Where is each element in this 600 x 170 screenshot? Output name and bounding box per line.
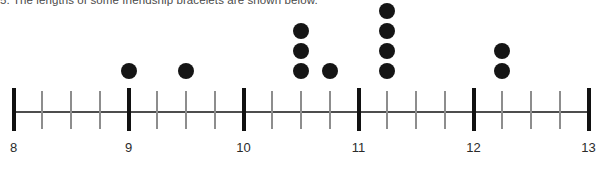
data-dot xyxy=(322,63,338,79)
axis-tick-minor xyxy=(501,91,503,129)
data-dot xyxy=(379,63,395,79)
data-dot xyxy=(293,43,309,59)
data-dot xyxy=(379,3,395,19)
data-dot xyxy=(494,63,510,79)
axis-tick-major xyxy=(587,88,591,131)
axis-tick-minor xyxy=(214,91,216,129)
axis-tick-minor xyxy=(156,91,158,129)
axis-tick-minor xyxy=(99,91,101,129)
axis-tick-major xyxy=(472,88,476,131)
axis-tick-label: 13 xyxy=(569,140,600,155)
axis-tick-minor xyxy=(559,91,561,129)
data-dot xyxy=(379,23,395,39)
axis-tick-major xyxy=(127,88,131,131)
data-dot xyxy=(293,23,309,39)
axis-tick-minor xyxy=(386,91,388,129)
data-dot xyxy=(293,63,309,79)
axis-tick-label: 12 xyxy=(454,140,494,155)
axis-tick-label: 9 xyxy=(109,140,149,155)
axis-tick-major xyxy=(357,88,361,131)
data-dot xyxy=(494,43,510,59)
axis-tick-minor xyxy=(271,91,273,129)
axis-tick-minor xyxy=(329,91,331,129)
data-dot xyxy=(379,43,395,59)
axis-tick-minor xyxy=(300,91,302,129)
data-dot xyxy=(121,63,137,79)
axis-tick-label: 11 xyxy=(339,140,379,155)
axis-tick-minor xyxy=(185,91,187,129)
axis-tick-minor xyxy=(41,91,43,129)
axis-tick-label: 8 xyxy=(0,140,34,155)
data-dot xyxy=(178,63,194,79)
axis-tick-label: 10 xyxy=(224,140,264,155)
axis-tick-minor xyxy=(444,91,446,129)
axis-tick-major xyxy=(12,88,16,131)
axis-tick-minor xyxy=(415,91,417,129)
axis-tick-major xyxy=(242,88,246,131)
axis-tick-minor xyxy=(530,91,532,129)
axis-tick-minor xyxy=(70,91,72,129)
